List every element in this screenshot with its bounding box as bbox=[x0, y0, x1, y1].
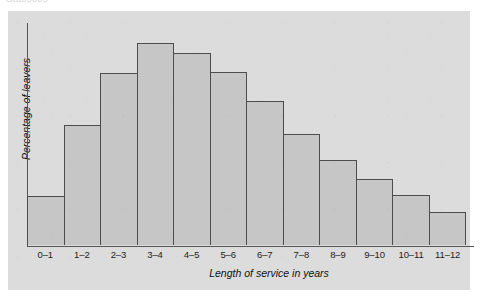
bar-2-3 bbox=[100, 73, 138, 245]
x-tick-label-5: 5–6 bbox=[210, 249, 247, 260]
x-tick-label-10: 10–11 bbox=[393, 249, 430, 260]
x-tick-label-0: 0–1 bbox=[27, 249, 64, 260]
bar-9-10 bbox=[356, 179, 394, 245]
figure-panel: Percentage of leavers 0–11–22–33–44–55–6… bbox=[8, 11, 470, 290]
bar-5-6 bbox=[210, 72, 248, 245]
x-tick-label-6: 6–7 bbox=[246, 249, 283, 260]
clipped-caption-strip: Statistics bbox=[0, 0, 489, 11]
bar-6-7 bbox=[246, 101, 284, 245]
bar-series bbox=[27, 23, 466, 245]
x-axis-title: Length of service in years bbox=[8, 267, 470, 279]
bar-7-8 bbox=[283, 134, 321, 245]
x-tick-label-7: 7–8 bbox=[283, 249, 320, 260]
x-tick-label-4: 4–5 bbox=[173, 249, 210, 260]
bar-3-4 bbox=[137, 43, 175, 245]
x-tick-label-1: 1–2 bbox=[64, 249, 101, 260]
bar-1-2 bbox=[64, 125, 102, 245]
bar-10-11 bbox=[392, 195, 430, 245]
x-tick-label-9: 9–10 bbox=[356, 249, 393, 260]
x-tick-label-11: 11–12 bbox=[429, 249, 466, 260]
bar-8-9 bbox=[319, 160, 357, 245]
clipped-caption-text: Statistics bbox=[6, 0, 48, 4]
bar-11-12 bbox=[429, 212, 467, 245]
bar-4-5 bbox=[173, 53, 211, 245]
x-tick-label-2: 2–3 bbox=[100, 249, 137, 260]
x-tick-label-3: 3–4 bbox=[137, 249, 174, 260]
x-tick-label-8: 8–9 bbox=[320, 249, 357, 260]
bar-0-1 bbox=[27, 196, 65, 245]
x-axis-line bbox=[27, 246, 474, 247]
x-axis-tick-labels: 0–11–22–33–44–55–66–77–88–99–1010–1111–1… bbox=[27, 249, 466, 260]
plot-area bbox=[27, 23, 474, 246]
